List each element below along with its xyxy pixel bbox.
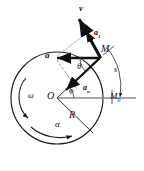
label-angle-theta: θ bbox=[77, 62, 81, 71]
label-point-M0: M0 bbox=[110, 92, 120, 103]
angular-velocity-arc-arrow bbox=[19, 78, 28, 118]
label-center-O: O bbox=[47, 91, 54, 101]
label-tangential-acceleration: a1 bbox=[94, 29, 100, 40]
label-point-M: M bbox=[101, 44, 109, 54]
label-radius-R: R bbox=[69, 110, 75, 120]
label-a1-sub: 1 bbox=[98, 34, 100, 39]
label-angular-velocity: ω bbox=[28, 92, 34, 100]
label-arc-length-s: s bbox=[114, 66, 117, 74]
label-angular-acceleration: α bbox=[55, 120, 60, 129]
label-M0-sub: 0 bbox=[118, 97, 121, 103]
label-velocity: v bbox=[79, 4, 83, 13]
label-an-sub: n bbox=[87, 89, 90, 94]
label-M0-base: M bbox=[110, 91, 118, 101]
angular-acceleration-arc-arrow bbox=[31, 127, 72, 138]
label-angle-phi: φ bbox=[69, 87, 73, 95]
construction-line-upper bbox=[57, 36, 83, 56]
label-normal-acceleration: an bbox=[83, 84, 90, 95]
construction-line-dashed bbox=[57, 60, 77, 89]
label-resultant-acceleration: a bbox=[45, 51, 50, 60]
physics-diagram-figure: v a1 M a θ an φ O M0 s R ω α bbox=[0, 0, 144, 171]
